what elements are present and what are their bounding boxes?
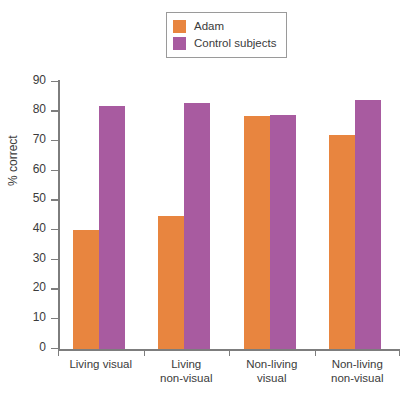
bar-control-subjects bbox=[270, 115, 296, 349]
x-axis-category-label-line: visual bbox=[229, 371, 315, 385]
x-axis-end-tick bbox=[58, 349, 59, 356]
y-axis-tick-label: 60 bbox=[33, 162, 46, 177]
x-axis-category-label: Non-livingvisual bbox=[229, 357, 315, 385]
y-axis-tick: 50 bbox=[51, 199, 58, 200]
bar-control-subjects bbox=[355, 100, 381, 349]
y-axis-tick: 80 bbox=[51, 110, 58, 111]
y-axis-tick-label: 50 bbox=[33, 191, 46, 206]
x-axis-category-label: Non-livingnon-visual bbox=[315, 357, 401, 385]
x-axis-end-tick bbox=[399, 349, 400, 356]
y-axis-tick-label: 0 bbox=[39, 340, 46, 355]
plot-area: 0102030405060708090 bbox=[58, 82, 400, 349]
y-axis-tick: 90 bbox=[51, 81, 58, 82]
y-axis-tick: 20 bbox=[51, 288, 58, 289]
x-axis-separator-tick bbox=[229, 349, 230, 356]
x-axis-separator-tick bbox=[315, 349, 316, 356]
y-axis-tick: 30 bbox=[51, 259, 58, 260]
y-axis-tick-label: 80 bbox=[33, 102, 46, 117]
x-axis-category-label-line: non-visual bbox=[315, 371, 401, 385]
x-axis-category-label: Livingnon-visual bbox=[144, 357, 230, 385]
y-axis-tick-label: 30 bbox=[33, 251, 46, 266]
bar-adam bbox=[329, 135, 355, 349]
y-axis-tick: 40 bbox=[51, 229, 58, 230]
legend-item-adam: Adam bbox=[173, 18, 276, 35]
legend-label-adam: Adam bbox=[194, 20, 224, 33]
bar-adam bbox=[158, 216, 184, 350]
y-axis-tick-label: 70 bbox=[33, 132, 46, 147]
bar-control-subjects bbox=[184, 103, 210, 349]
y-axis-tick: 10 bbox=[51, 318, 58, 319]
x-axis-category-label: Living visual bbox=[58, 357, 144, 371]
y-axis-tick-label: 90 bbox=[33, 73, 46, 88]
bar-adam bbox=[244, 116, 270, 349]
y-axis-tick: 0 bbox=[51, 348, 58, 349]
y-axis-tick: 70 bbox=[51, 140, 58, 141]
y-axis-tick-label: 10 bbox=[33, 310, 46, 325]
x-axis-category-label-line: non-visual bbox=[144, 371, 230, 385]
x-axis-category-label-line: Living visual bbox=[58, 357, 144, 371]
y-axis-tick-label: 40 bbox=[33, 221, 46, 236]
y-axis-title: % correct bbox=[6, 135, 20, 186]
x-axis-separator-tick bbox=[144, 349, 145, 356]
y-axis-tick: 60 bbox=[51, 170, 58, 171]
chart-legend: Adam Control subjects bbox=[166, 12, 287, 58]
y-axis-tick-label: 20 bbox=[33, 280, 46, 295]
legend-label-control-subjects: Control subjects bbox=[194, 37, 276, 50]
bar-control-subjects bbox=[99, 106, 125, 349]
bar-chart: Adam Control subjects % correct 01020304… bbox=[0, 0, 413, 397]
bar-adam bbox=[73, 230, 99, 349]
legend-swatch-adam bbox=[173, 20, 186, 33]
legend-item-control-subjects: Control subjects bbox=[173, 35, 276, 52]
x-axis-category-label-line: Living bbox=[144, 357, 230, 371]
x-axis-category-label-line: Non-living bbox=[229, 357, 315, 371]
x-axis-category-label-line: Non-living bbox=[315, 357, 401, 371]
legend-swatch-control-subjects bbox=[173, 37, 186, 50]
